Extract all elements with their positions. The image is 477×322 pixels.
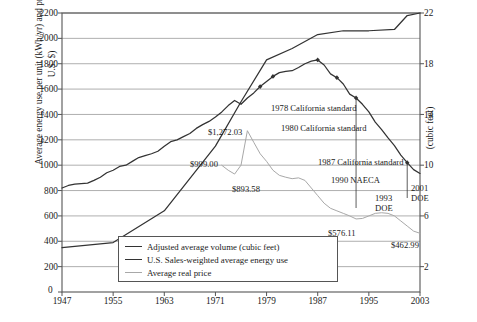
- standard-annotation: 1978 California standard: [271, 103, 356, 113]
- price-annotation: $1,272.03: [208, 127, 242, 137]
- standard-annotation: DOE: [411, 193, 429, 203]
- price-annotation: $462.99: [391, 240, 419, 250]
- legend-swatch-energy: [125, 259, 142, 260]
- standard-annotation: DOE: [375, 203, 393, 213]
- refrigerator-energy-chart: Average energy use per unit (kWh/yr) and…: [0, 0, 477, 322]
- legend-item: U.S. Sales-weighted average energy use: [125, 253, 337, 266]
- legend-label-energy: U.S. Sales-weighted average energy use: [147, 255, 288, 265]
- standard-annotation: 1993: [375, 193, 392, 203]
- standard-annotation: 1987 California standard: [318, 157, 403, 167]
- standard-annotation: 1980 California standard: [281, 123, 366, 133]
- legend-label-price: Average real price: [147, 268, 211, 278]
- legend-swatch-volume: [125, 246, 142, 247]
- standard-annotation: 1990 NAECA: [331, 175, 380, 185]
- legend-item: Adjusted average volume (cubic feet): [125, 240, 337, 253]
- price-annotation: $999.00: [190, 159, 218, 169]
- standard-annotation: 2001: [411, 183, 428, 193]
- legend-swatch-price: [125, 272, 142, 273]
- price-annotation: $893.58: [232, 184, 260, 194]
- chart-legend: Adjusted average volume (cubic feet) U.S…: [118, 236, 338, 282]
- legend-item: Average real price: [125, 266, 337, 279]
- legend-label-volume: Adjusted average volume (cubic feet): [147, 242, 279, 252]
